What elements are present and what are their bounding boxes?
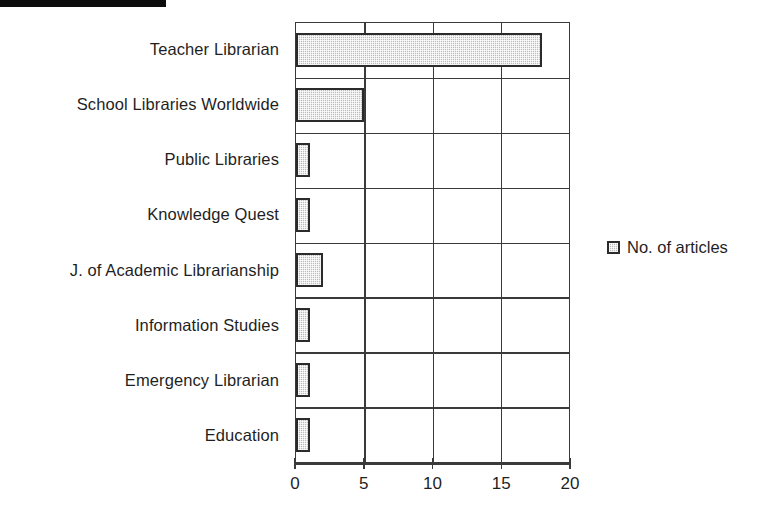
bar-row [296,243,569,298]
x-tick-label: 10 [423,474,442,494]
bar-public-libraries [296,143,310,177]
x-tick-label: 0 [290,474,299,494]
bar-education [296,418,310,452]
category-label: J. of Academic Librarianship [0,243,288,298]
horizontal-bar-chart: Teacher Librarian School Libraries World… [0,0,778,521]
bar-row [296,188,569,243]
x-tick-label: 5 [359,474,368,494]
category-label: Emergency Librarian [0,353,288,408]
x-tick-label: 15 [492,474,511,494]
bar-teacher-librarian [296,33,542,67]
bar-knowledge-quest [296,198,310,232]
category-label: Information Studies [0,298,288,353]
bar-j-of-academic-librarianship [296,253,323,287]
category-label: Knowledge Quest [0,187,288,242]
category-label: School Libraries Worldwide [0,77,288,132]
bar-row [296,78,569,133]
x-tick-mark [294,458,296,469]
category-axis: Teacher Librarian School Libraries World… [0,22,288,463]
x-tick-mark [363,458,365,469]
legend-label: No. of articles [627,238,728,257]
plot-area [295,22,570,463]
category-label: Education [0,408,288,463]
bar-emergency-librarian [296,363,310,397]
category-label: Public Libraries [0,132,288,187]
bars-layer [296,23,569,462]
bar-row [296,23,569,78]
legend-swatch-icon [607,241,620,254]
value-axis: 05101520 [295,463,570,509]
x-tick-label: 20 [561,474,580,494]
bar-school-libraries-worldwide [296,88,364,122]
bar-row [296,133,569,188]
x-tick-mark [569,458,571,469]
bar-information-studies [296,308,310,342]
bar-row [296,352,569,407]
legend: No. of articles [607,238,728,257]
x-tick-mark [501,458,503,469]
x-tick-mark [432,458,434,469]
bar-row [296,407,569,462]
category-label: Teacher Librarian [0,22,288,77]
bar-row [296,297,569,352]
